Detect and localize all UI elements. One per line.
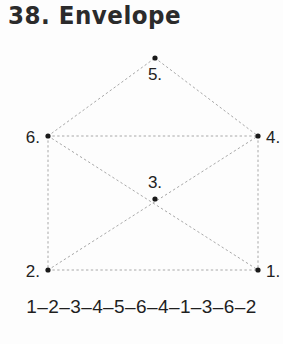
graph-vertex-4 (255, 133, 260, 138)
vertex-layer (45, 55, 260, 272)
edge-layer (48, 58, 258, 270)
graph-vertex-3 (152, 196, 157, 201)
envelope-graph-figure: 1.2.3.4.5.6. (0, 40, 283, 290)
vertex-label-3: 3. (148, 173, 162, 192)
vertex-label-1: 1. (266, 262, 280, 281)
vertex-label-2: 2. (26, 262, 40, 281)
graph-vertex-5 (152, 55, 157, 60)
graph-vertex-1 (255, 267, 260, 272)
vertex-label-4: 4. (266, 128, 280, 147)
vertex-label-5: 5. (148, 65, 162, 84)
graph-vertex-2 (45, 267, 50, 272)
graph-edge-6-5 (48, 58, 155, 136)
graph-vertex-6 (45, 133, 50, 138)
envelope-graph-svg: 1.2.3.4.5.6. (0, 40, 283, 290)
solution-sequence: 1–2–3–4–5–6–4–1–3–6–2 (0, 296, 283, 318)
page-title: 38. Envelope (8, 2, 181, 30)
envelope-puzzle-card: 38. Envelope 1.2.3.4.5.6. 1–2–3–4–5–6–4–… (0, 0, 283, 344)
vertex-label-6: 6. (26, 128, 40, 147)
graph-edge-5-4 (155, 58, 258, 136)
vertex-label-layer: 1.2.3.4.5.6. (26, 65, 280, 281)
